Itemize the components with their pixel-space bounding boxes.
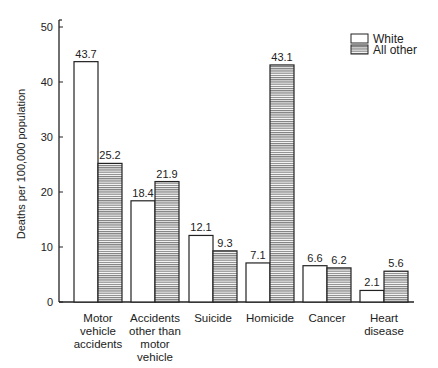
bar-value-label: 2.1 xyxy=(364,276,379,288)
category-label: other than xyxy=(129,325,181,337)
category-label: vehicle xyxy=(137,351,173,363)
bar-value-label: 6.2 xyxy=(331,254,346,266)
legend: White All other xyxy=(351,32,417,57)
bar-value-label: 7.1 xyxy=(250,249,265,261)
bar-all-other xyxy=(213,251,237,302)
bar-all-other xyxy=(270,65,294,302)
y-tick-label: 50 xyxy=(41,21,53,33)
bar-value-label: 6.6 xyxy=(307,252,322,264)
y-tick-label: 30 xyxy=(41,131,53,143)
bar-white xyxy=(360,290,384,302)
bar-value-label: 5.6 xyxy=(388,257,403,269)
bar-all-other xyxy=(155,182,179,302)
bar-chart: 01020304050 43.725.218.421.912.19.37.143… xyxy=(0,0,438,368)
y-axis-label: Deaths per 100,000 population xyxy=(15,89,27,239)
bar-white xyxy=(131,201,155,302)
category-label: vehicle xyxy=(80,325,116,337)
bar-white xyxy=(246,263,270,302)
category-label: motor xyxy=(140,338,170,350)
legend-swatch-white xyxy=(351,34,368,43)
legend-swatch-all-other xyxy=(351,45,368,54)
category-label: Motor xyxy=(83,312,113,324)
category-label: Heart xyxy=(370,312,399,324)
x-axis-labels: MotorvehicleaccidentsAccidentsother than… xyxy=(74,312,404,363)
bar-all-other xyxy=(327,268,351,302)
bar-value-label: 43.7 xyxy=(75,48,96,60)
bar-white xyxy=(303,266,327,302)
category-label: Cancer xyxy=(308,312,345,324)
y-tick-label: 40 xyxy=(41,76,53,88)
legend-label-all-other: All other xyxy=(373,43,417,57)
bar-value-label: 25.2 xyxy=(99,149,120,161)
bar-value-label: 21.9 xyxy=(156,168,177,180)
category-label: accidents xyxy=(74,338,123,350)
bar-value-label: 18.4 xyxy=(132,187,153,199)
bar-value-label: 9.3 xyxy=(217,237,232,249)
y-tick-label: 10 xyxy=(41,241,53,253)
bar-white xyxy=(189,235,213,302)
y-tick-label: 0 xyxy=(47,296,53,308)
category-label: disease xyxy=(364,325,404,337)
bar-white xyxy=(74,62,98,302)
bar-value-label: 43.1 xyxy=(271,51,292,63)
category-label: Accidents xyxy=(130,312,180,324)
bar-value-label: 12.1 xyxy=(190,221,211,233)
bars: 43.725.218.421.912.19.37.143.16.66.22.15… xyxy=(74,48,408,302)
bar-all-other xyxy=(384,271,408,302)
category-label: Suicide xyxy=(194,312,232,324)
bar-all-other xyxy=(98,163,122,302)
y-tick-label: 20 xyxy=(41,186,53,198)
category-label: Homicide xyxy=(246,312,294,324)
